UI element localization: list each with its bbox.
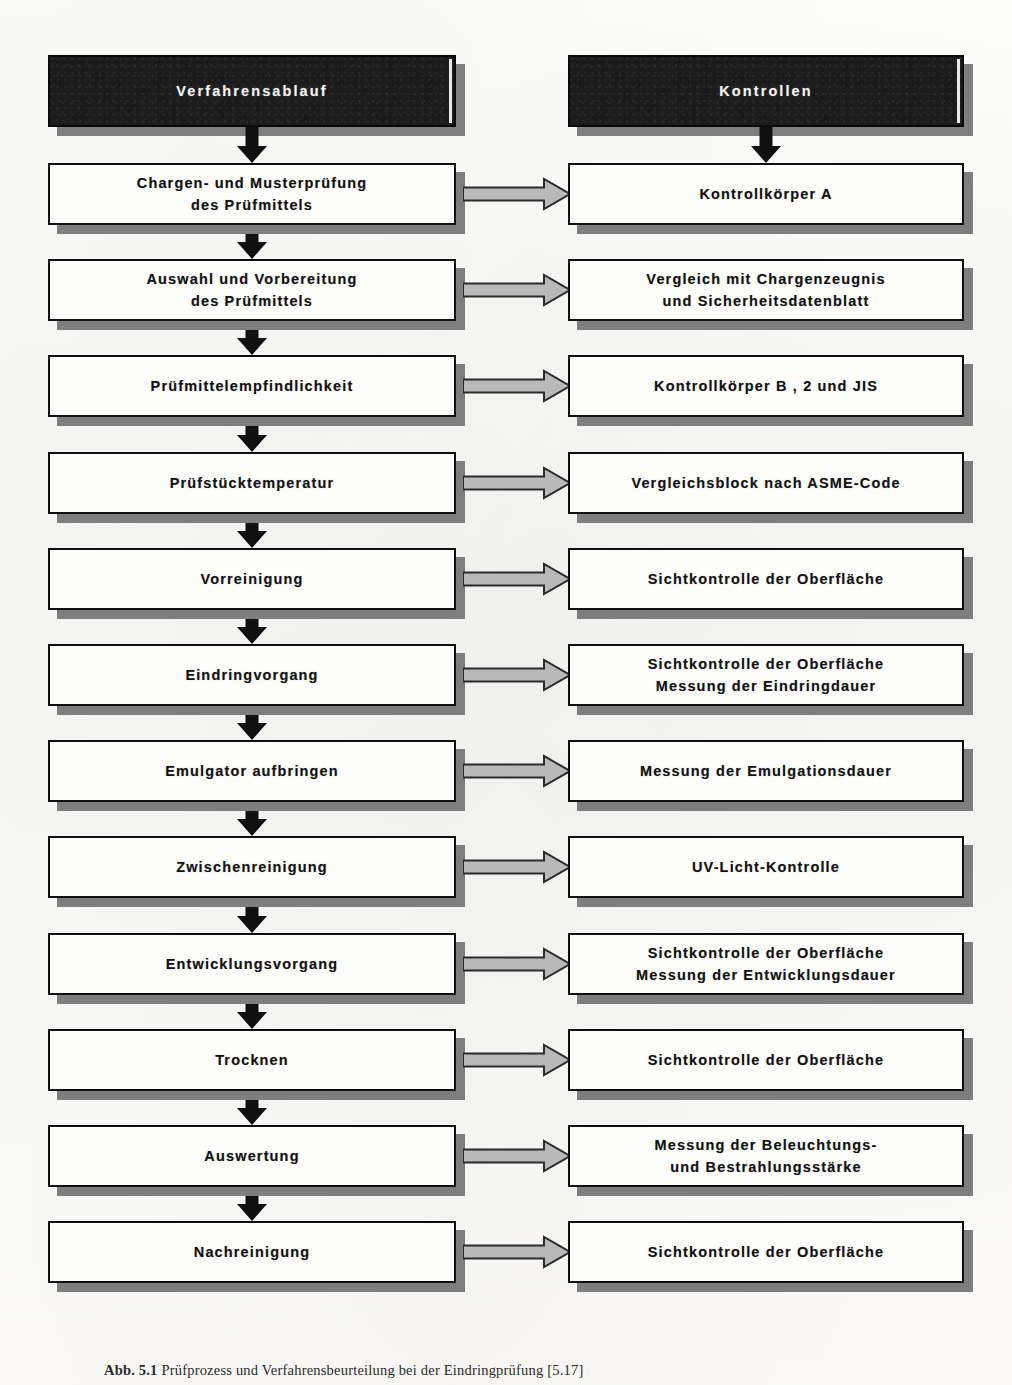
process-step-box: Prüfstücktemperatur [48, 452, 456, 514]
flow-arrow-step [235, 234, 269, 259]
flow-arrow-right-header [749, 127, 783, 163]
link-arrow [463, 658, 570, 692]
process-step-label: Prüfstücktemperatur [162, 472, 342, 494]
control-box: Messung der Beleuchtungs- und Bestrahlun… [568, 1125, 964, 1187]
process-flow-diagram: VerfahrensablaufKontrollenChargen- und M… [0, 0, 1012, 1385]
link-arrow [463, 754, 570, 788]
process-step-label: Prüfmittelempfindlichkeit [143, 375, 362, 397]
process-step-label: Vorreinigung [193, 568, 312, 590]
control-label: Vergleich mit Chargenzeugnis und Sicherh… [638, 268, 893, 312]
process-step-label: Trocknen [207, 1049, 297, 1071]
flow-arrow-step [235, 715, 269, 740]
link-arrow [463, 1139, 570, 1173]
flow-arrow-left-header [235, 127, 269, 163]
link-arrow [463, 1235, 570, 1269]
process-step-label: Zwischenreinigung [168, 856, 336, 878]
link-arrow [463, 562, 570, 596]
control-label: Messung der Beleuchtungs- und Bestrahlun… [647, 1134, 886, 1178]
process-step-box: Emulgator aufbringen [48, 740, 456, 802]
flow-arrow-step [235, 330, 269, 355]
process-step-box: Auswertung [48, 1125, 456, 1187]
control-box: UV-Licht-Kontrolle [568, 836, 964, 898]
control-box: Vergleich mit Chargenzeugnis und Sicherh… [568, 259, 964, 321]
control-box: Messung der Emulgationsdauer [568, 740, 964, 802]
process-step-label: Eindringvorgang [177, 664, 326, 686]
process-step-box: Nachreinigung [48, 1221, 456, 1283]
control-label: Sichtkontrolle der Oberfläche Messung de… [628, 942, 904, 986]
process-step-box: Eindringvorgang [48, 644, 456, 706]
process-step-box: Zwischenreinigung [48, 836, 456, 898]
control-box: Sichtkontrolle der Oberfläche [568, 1221, 964, 1283]
link-arrow [463, 177, 570, 211]
control-label: Vergleichsblock nach ASME-Code [623, 472, 908, 494]
flow-arrow-step [235, 1004, 269, 1029]
process-step-box: Vorreinigung [48, 548, 456, 610]
process-step-box: Auswahl und Vorbereitung des Prüfmittels [48, 259, 456, 321]
link-arrow [463, 1043, 570, 1077]
process-step-box: Prüfmittelempfindlichkeit [48, 355, 456, 417]
link-arrow [463, 369, 570, 403]
flow-arrow-step [235, 907, 269, 933]
control-label: Sichtkontrolle der Oberfläche Messung de… [640, 653, 892, 697]
control-box: Sichtkontrolle der Oberfläche Messung de… [568, 644, 964, 706]
control-box: Sichtkontrolle der Oberfläche [568, 1029, 964, 1091]
control-label: Messung der Emulgationsdauer [632, 760, 900, 782]
flow-arrow-step [235, 811, 269, 836]
flow-arrow-step [235, 523, 269, 548]
left-column-header-label: Verfahrensablauf [168, 80, 335, 102]
link-arrow [463, 850, 570, 884]
process-step-box: Trocknen [48, 1029, 456, 1091]
process-step-label: Nachreinigung [186, 1241, 318, 1263]
flow-arrow-step [235, 1196, 269, 1221]
right-column-header-label: Kontrollen [711, 80, 821, 102]
link-arrow [463, 947, 570, 981]
control-box: Kontrollkörper A [568, 163, 964, 225]
figure-number: Abb. 5.1 [104, 1362, 158, 1378]
process-step-box: Entwicklungsvorgang [48, 933, 456, 995]
process-step-label: Auswertung [196, 1145, 307, 1167]
control-label: Sichtkontrolle der Oberfläche [640, 1241, 892, 1263]
control-box: Vergleichsblock nach ASME-Code [568, 452, 964, 514]
control-box: Kontrollkörper B , 2 und JIS [568, 355, 964, 417]
control-label: UV-Licht-Kontrolle [684, 856, 848, 878]
process-step-label: Chargen- und Musterprüfung des Prüfmitte… [129, 172, 375, 216]
process-step-label: Emulgator aufbringen [157, 760, 347, 782]
process-step-label: Entwicklungsvorgang [158, 953, 347, 975]
control-label: Sichtkontrolle der Oberfläche [640, 568, 892, 590]
control-label: Kontrollkörper A [691, 183, 840, 205]
left-column-header: Verfahrensablauf [48, 55, 456, 127]
right-column-header: Kontrollen [568, 55, 964, 127]
control-label: Sichtkontrolle der Oberfläche [640, 1049, 892, 1071]
control-label: Kontrollkörper B , 2 und JIS [646, 375, 886, 397]
control-box: Sichtkontrolle der Oberfläche [568, 548, 964, 610]
figure-caption: Abb. 5.1 Prüfprozess und Verfahrensbeurt… [104, 1362, 924, 1379]
link-arrow [463, 466, 570, 500]
link-arrow [463, 273, 570, 307]
process-step-box: Chargen- und Musterprüfung des Prüfmitte… [48, 163, 456, 225]
flow-arrow-step [235, 619, 269, 644]
flow-arrow-step [235, 426, 269, 452]
flow-arrow-step [235, 1100, 269, 1125]
process-step-label: Auswahl und Vorbereitung des Prüfmittels [138, 268, 365, 312]
figure-caption-text: Prüfprozess und Verfahrensbeurteilung be… [161, 1362, 583, 1378]
control-box: Sichtkontrolle der Oberfläche Messung de… [568, 933, 964, 995]
